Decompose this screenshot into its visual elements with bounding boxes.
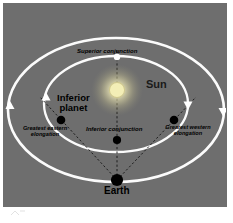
label-superior-conjunction: Superior conjunction (77, 48, 137, 54)
inferior-orbit-arrow-left-icon (42, 92, 51, 101)
label-inferior-planet: Inferior planet (57, 93, 90, 113)
earth-orbit-arrow-right-icon (219, 108, 228, 117)
label-inferior-conjunction: Inferior conjunction (86, 126, 142, 132)
label-sun: Sun (146, 79, 167, 91)
label-greatest-western-elongation-line2: elongation (159, 131, 217, 137)
caption-mark (10, 210, 26, 216)
label-greatest-eastern-elongation-line2: elongation (16, 132, 74, 138)
greatest-eastern-elongation-planet (57, 116, 66, 125)
label-greatest-western-elongation: Greatest western elongation (159, 125, 217, 137)
astronomy-diagram-figure: Superior conjunction Sun Inferior planet… (0, 0, 233, 223)
superior-conjunction-planet (114, 54, 120, 60)
label-greatest-eastern-elongation: Greatest eastern elongation (16, 126, 74, 138)
sun-disk (109, 82, 124, 97)
label-inferior-planet-line2: planet (57, 103, 90, 113)
inferior-conjunction-planet (113, 136, 121, 144)
label-earth: Earth (104, 186, 130, 197)
greatest-western-elongation-planet (170, 116, 179, 125)
earth-orbit-arrow-left-icon (6, 100, 15, 109)
